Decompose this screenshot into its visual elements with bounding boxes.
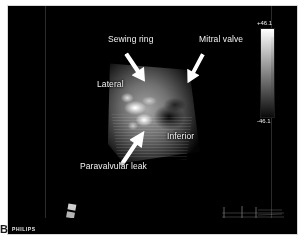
annotation-label-inferior: Inferior [167, 132, 194, 141]
panel-divider-left [45, 6, 46, 234]
depth-scale-tick [67, 203, 76, 210]
colorbar-top-label: +46.1 [257, 20, 272, 26]
annotation-label-sewing-ring: Sewing ring [108, 35, 154, 44]
colorbar-tick-column [271, 37, 274, 125]
panel-letter: B [0, 224, 8, 235]
panel-footer-strip [8, 218, 297, 234]
figure-frame: Sewing ring Mitral valve Lateral Inferio… [0, 0, 305, 241]
ultrasound-display-panel: Sewing ring Mitral valve Lateral Inferio… [8, 6, 297, 234]
annotation-label-lateral: Lateral [97, 80, 124, 89]
colorbar: +46.1 -46.1 [255, 20, 285, 124]
annotation-label-paravalvular-leak: Paravalvular leak [80, 162, 147, 171]
screenshot-root: Sewing ring Mitral valve Lateral Inferio… [0, 0, 305, 241]
colorbar-gradient [260, 28, 275, 118]
annotation-label-mitral-valve: Mitral valve [199, 35, 243, 44]
colorbar-bottom-label: -46.1 [257, 118, 271, 124]
philips-logo: PHILIPS [12, 227, 36, 232]
